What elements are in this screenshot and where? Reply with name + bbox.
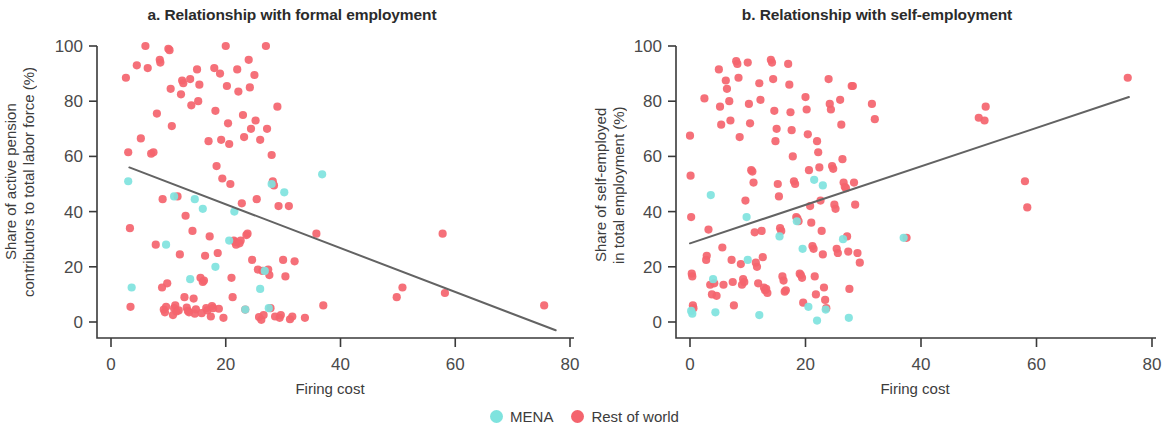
- svg-text:0: 0: [653, 313, 662, 332]
- legend-label-mena: MENA: [510, 408, 553, 425]
- legend-swatch-circle-icon: [571, 410, 584, 423]
- svg-text:0: 0: [74, 313, 83, 332]
- svg-text:80: 80: [64, 92, 83, 111]
- svg-text:20: 20: [64, 258, 83, 277]
- svg-text:100: 100: [55, 37, 83, 56]
- svg-text:60: 60: [446, 355, 465, 374]
- svg-text:0: 0: [685, 355, 694, 374]
- svg-text:60: 60: [64, 147, 83, 166]
- panel-b-plot-area: 020406080100020406080: [585, 0, 1169, 400]
- legend-swatch-circle-icon: [490, 410, 503, 423]
- svg-text:40: 40: [64, 203, 83, 222]
- chart-panel-b: b. Relationship with self-employment 020…: [585, 0, 1169, 400]
- svg-text:80: 80: [1143, 355, 1162, 374]
- svg-text:80: 80: [561, 355, 580, 374]
- chart-legend: MENA Rest of world: [0, 408, 1169, 425]
- svg-text:20: 20: [216, 355, 235, 374]
- legend-label-rest-of-world: Rest of world: [591, 408, 679, 425]
- svg-text:40: 40: [912, 355, 931, 374]
- scatter-figure: a. Relationship with formal employment S…: [0, 0, 1169, 439]
- svg-text:0: 0: [106, 355, 115, 374]
- chart-panel-a: a. Relationship with formal employment S…: [0, 0, 584, 400]
- svg-text:20: 20: [796, 355, 815, 374]
- svg-text:60: 60: [643, 147, 662, 166]
- panel-b-x-axis-label: Firing cost: [795, 380, 1035, 397]
- svg-text:80: 80: [643, 92, 662, 111]
- panel-b-y-axis-label: Share of self-employed in total employme…: [592, 54, 634, 316]
- svg-text:60: 60: [1027, 355, 1046, 374]
- legend-item-rest-of-world[interactable]: Rest of world: [571, 408, 679, 425]
- legend-item-mena[interactable]: MENA: [490, 408, 553, 425]
- svg-text:20: 20: [643, 258, 662, 277]
- svg-text:40: 40: [643, 203, 662, 222]
- panel-a-plot-area: 020406080100020406080: [0, 0, 584, 400]
- svg-text:100: 100: [634, 37, 662, 56]
- svg-text:40: 40: [331, 355, 350, 374]
